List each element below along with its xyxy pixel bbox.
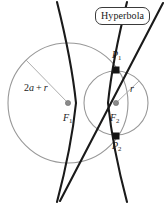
figure-canvas (0, 0, 167, 204)
label-point-1-subscript: 1 (118, 54, 121, 61)
focus-1-dot (65, 100, 70, 105)
point-p1-marker (113, 67, 120, 74)
label-sum-distance: 2a + r (24, 83, 48, 93)
label-point-2-subscript: 2 (118, 145, 121, 152)
label-sum-operator: + (36, 82, 42, 93)
label-sum-radius: r (44, 82, 48, 93)
hyperbola-figure: Hyperbola 2a + r r F1 F2 P1 P2 (0, 0, 167, 204)
figure-title-text: Hyperbola (101, 10, 144, 21)
label-point-2: P2 (112, 141, 122, 153)
label-sum-semi-axis: a (29, 82, 34, 93)
label-focus-1: F1 (63, 113, 73, 125)
focus-2-dot (113, 100, 118, 105)
label-focus-1-subscript: 1 (69, 117, 72, 124)
label-focus-2: F2 (110, 113, 120, 125)
label-focus-2-subscript: 2 (116, 117, 119, 124)
label-radius: r (130, 84, 134, 94)
point-p2-marker (113, 133, 120, 140)
figure-title-box: Hyperbola (95, 7, 150, 25)
label-point-1: P1 (112, 50, 122, 62)
